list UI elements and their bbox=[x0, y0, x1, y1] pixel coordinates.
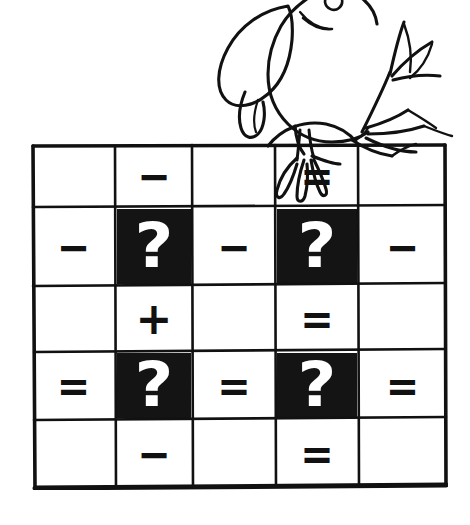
bird-tail-feather-1b bbox=[404, 24, 411, 72]
bird-tail-spine bbox=[362, 72, 390, 132]
cell-symbol-plus: + bbox=[136, 297, 173, 341]
grid-cell-r2c3[interactable]: − bbox=[194, 209, 274, 284]
cell-symbol-equals: = bbox=[300, 432, 334, 476]
grid-cell-r2c1[interactable]: − bbox=[33, 209, 114, 284]
bird-eye bbox=[325, 0, 342, 10]
cell-symbol-question: ? bbox=[298, 215, 337, 277]
cell-symbol-equals: = bbox=[57, 364, 91, 408]
grid-cell-r3c5[interactable] bbox=[360, 287, 445, 350]
grid-cell-r3c2[interactable]: + bbox=[117, 287, 191, 350]
puzzle-grid-cells: −=−?−?−+==?=?=−= bbox=[31, 143, 448, 490]
bird-wing bbox=[219, 6, 293, 106]
bird-tail-lower-2 bbox=[368, 126, 424, 134]
bird-wing-tip bbox=[240, 92, 265, 137]
grid-cell-r5c4[interactable]: = bbox=[277, 421, 357, 487]
cell-symbol-minus: − bbox=[217, 224, 251, 270]
bird-head-outline bbox=[317, 0, 377, 24]
bird-beak-line bbox=[300, 12, 329, 29]
illustration-canvas: −=−?−?−+==?=?=−= bbox=[0, 0, 470, 525]
bird-tail-lower-1b bbox=[408, 110, 436, 128]
bird-tail-feather-1 bbox=[390, 22, 404, 74]
cell-symbol-minus: − bbox=[137, 431, 171, 477]
grid-cell-r1c1[interactable] bbox=[33, 145, 114, 206]
bird-tail-feather-2 bbox=[392, 42, 432, 76]
grid-cell-r4c1[interactable]: = bbox=[33, 353, 114, 418]
bird-beak bbox=[303, 18, 332, 29]
grid-cell-r1c2[interactable]: − bbox=[117, 145, 191, 206]
cell-symbol-minus: − bbox=[137, 153, 171, 199]
bird-tail-lower-2b bbox=[424, 126, 452, 136]
bird-tail-joint bbox=[356, 128, 368, 140]
grid-cell-r3c4[interactable]: = bbox=[277, 287, 357, 350]
grid-cell-r5c5[interactable] bbox=[360, 421, 445, 487]
cell-symbol-question: ? bbox=[298, 354, 337, 416]
bird-body-outline bbox=[268, 0, 368, 142]
bird-tail-feather-3 bbox=[393, 75, 440, 80]
grid-cell-r1c4[interactable]: = bbox=[277, 145, 357, 206]
bird-tail-lower-1 bbox=[366, 110, 408, 128]
cell-symbol-equals: = bbox=[386, 364, 420, 408]
puzzle-grid[interactable]: −=−?−?−+==?=?=−= bbox=[31, 143, 448, 490]
grid-cell-r3c3[interactable] bbox=[194, 287, 274, 350]
grid-cell-r2c4[interactable]: ? bbox=[277, 209, 357, 284]
grid-cell-r4c2[interactable]: ? bbox=[117, 353, 191, 418]
grid-cell-r2c2[interactable]: ? bbox=[117, 209, 191, 284]
grid-cell-r5c1[interactable] bbox=[33, 421, 114, 487]
grid-cell-r4c5[interactable]: = bbox=[360, 353, 445, 418]
grid-cell-r3c1[interactable] bbox=[33, 287, 114, 350]
bird-wing-tip-line bbox=[254, 100, 258, 132]
cell-symbol-minus: − bbox=[386, 224, 420, 270]
grid-cell-r1c5[interactable] bbox=[360, 145, 445, 206]
grid-cell-r4c3[interactable]: = bbox=[194, 353, 274, 418]
bird-tail-feather-2b bbox=[410, 44, 432, 78]
cell-symbol-equals: = bbox=[300, 297, 334, 341]
cell-symbol-minus: − bbox=[57, 224, 91, 270]
cell-symbol-question: ? bbox=[135, 215, 174, 277]
grid-cell-r4c4[interactable]: ? bbox=[277, 353, 357, 418]
cell-symbol-question: ? bbox=[135, 354, 174, 416]
grid-cell-r5c3[interactable] bbox=[194, 421, 274, 487]
cell-symbol-equals: = bbox=[217, 364, 251, 408]
cell-symbol-equals: = bbox=[300, 154, 334, 198]
grid-cell-r1c3[interactable] bbox=[194, 145, 274, 206]
grid-cell-r5c2[interactable]: − bbox=[117, 421, 191, 487]
grid-cell-r2c5[interactable]: − bbox=[360, 209, 445, 284]
